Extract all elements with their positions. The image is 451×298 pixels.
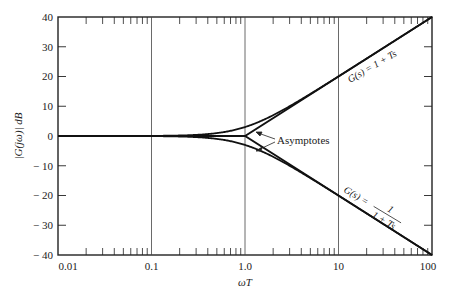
y-tick-label: − 30	[33, 219, 53, 231]
y-axis-label: |G(jω)| dB	[12, 112, 25, 159]
y-tick-labels: 40 30 20 10 0 − 10 − 20 − 30 − 40	[33, 11, 53, 261]
x-tick-label: 0.01	[58, 260, 77, 272]
x-tick-label: 0.1	[145, 260, 159, 272]
x-tick-labels: 0.01 0.1 1.0 10 100	[58, 260, 436, 272]
x-axis-label: ωT	[238, 276, 253, 288]
lower-curve-prefix: G(s) =	[341, 184, 370, 208]
y-tick-label: − 20	[33, 189, 53, 201]
asymptotes-label: Asymptotes	[277, 134, 330, 146]
x-tick-label: 1.0	[238, 260, 252, 272]
y-tick-label: 30	[42, 41, 54, 53]
y-tick-label: 0	[48, 130, 54, 142]
x-tick-label: 100	[420, 260, 437, 272]
x-tick-label: 10	[333, 260, 345, 272]
lower-curve-numerator: 1	[386, 203, 396, 215]
bode-plot: 40 30 20 10 0 − 10 − 20 − 30 − 40 0.01 0…	[0, 0, 451, 298]
y-tick-label: 40	[42, 11, 54, 23]
y-tick-label: 10	[42, 100, 54, 112]
lower-curve-label: G(s) = 1 1 + Ts	[338, 179, 407, 234]
y-tick-label: − 40	[33, 249, 53, 261]
y-tick-label: 20	[42, 70, 54, 82]
y-tick-label: − 10	[33, 160, 53, 172]
